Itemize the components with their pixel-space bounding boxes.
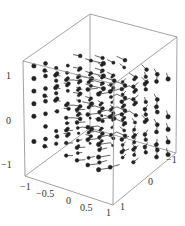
arrow-head (144, 100, 148, 104)
vector-arrows (32, 54, 171, 172)
arrow-head (143, 145, 147, 149)
axis-tick-labels: 10−1−1−0.500.5110−1 (1, 70, 177, 218)
arrow-head (155, 110, 159, 114)
arrow-head (76, 89, 79, 92)
arrow-head (44, 112, 48, 116)
arrow-head (123, 66, 126, 69)
arrow-head (143, 82, 147, 86)
arrow-head (98, 161, 102, 165)
arrow-head (111, 127, 113, 129)
arrow-head (111, 76, 113, 78)
arrow-head (64, 103, 68, 107)
arrow-head (101, 64, 104, 67)
axis-tick-label: −1 (20, 181, 31, 192)
arrow-head (143, 120, 147, 124)
axis-tick-label: −0.5 (36, 188, 54, 199)
arrow-head (89, 142, 91, 144)
arrow-head (64, 129, 68, 133)
arrow-head (55, 135, 59, 139)
arrow-head (134, 76, 138, 80)
arrow-head (143, 107, 147, 111)
axis-tick-label: 0 (148, 176, 153, 187)
arrow-head (155, 155, 159, 159)
arrow-head (166, 115, 170, 119)
arrow-head (166, 77, 170, 81)
arrow-head (96, 117, 100, 121)
arrow-head (44, 87, 48, 91)
arrow-head (77, 94, 80, 97)
arrow-head (144, 151, 148, 155)
arrow-head (143, 133, 147, 137)
arrow-head (145, 68, 149, 72)
arrow-head (121, 80, 124, 83)
arrow-head (133, 128, 136, 131)
axis-tick-label: −1 (1, 159, 12, 170)
arrow-head (98, 148, 102, 152)
arrow-head (44, 74, 48, 78)
arrow-head (32, 114, 36, 118)
arrow-head (166, 140, 170, 144)
arrow-head (64, 78, 68, 82)
arrow-head (43, 69, 47, 73)
arrow-head (101, 56, 105, 60)
arrow-head (101, 114, 104, 117)
arrow-head (134, 88, 138, 92)
arrow-head (86, 163, 90, 167)
arrow-head (144, 75, 148, 79)
axis-tick-label: 1 (106, 207, 111, 218)
arrow-head (54, 86, 58, 90)
arrow-head (43, 94, 47, 98)
arrow-head (98, 110, 102, 114)
arrow-head (108, 165, 112, 169)
arrow-head (108, 90, 112, 94)
arrow-head (43, 144, 47, 148)
arrow-head (155, 148, 159, 152)
arrow-head (32, 76, 36, 80)
arrow-head (77, 132, 80, 135)
arrow-head (76, 76, 79, 79)
arrow-head (54, 79, 58, 83)
arrow-head (96, 142, 100, 146)
arrow-head (88, 99, 90, 101)
arrow-head (120, 138, 124, 142)
arrow-head (109, 95, 112, 98)
arrow-head (144, 113, 148, 117)
arrow-head (66, 89, 69, 92)
arrow-head (99, 104, 102, 107)
arrow-head (132, 97, 136, 101)
arrow-head (96, 92, 100, 96)
arrow-head (89, 84, 92, 87)
arrow-head (101, 77, 104, 80)
arrow-head (155, 123, 159, 127)
arrow-head (122, 124, 125, 127)
arrow-head (112, 107, 114, 109)
arrow-head (32, 102, 36, 106)
arrow-head (54, 73, 58, 77)
arrow-head (75, 158, 79, 162)
arrow-head (144, 138, 148, 142)
arrow-head (96, 168, 100, 172)
arrow-head (64, 154, 68, 158)
arrow-head (121, 156, 124, 159)
axis-tick-label: 1 (6, 70, 11, 81)
arrow-head (77, 69, 80, 72)
axis-tick-label: 0 (6, 115, 11, 126)
arrow-head (88, 74, 90, 76)
arrow-head (121, 143, 124, 146)
arrow-head (44, 99, 48, 103)
arrow-head (76, 114, 79, 117)
arrow-head (123, 116, 126, 119)
arrow-head (121, 93, 124, 96)
arrow-head (155, 130, 159, 134)
arrow-head (120, 112, 124, 116)
arrow-head (112, 79, 116, 83)
arrow-head (100, 72, 102, 74)
arrow-head (78, 99, 81, 102)
arrow-head (109, 133, 112, 136)
arrow-head (155, 80, 159, 84)
arrow-head (32, 139, 36, 143)
arrow-head (87, 106, 90, 109)
arrow-head (44, 124, 48, 128)
arrow-head (98, 136, 102, 140)
arrow-head (75, 108, 79, 112)
